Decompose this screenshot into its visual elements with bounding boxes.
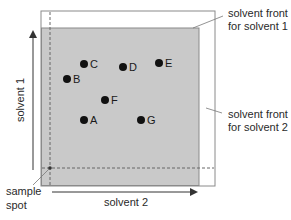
- tlc-diagram: solvent 1 solvent 2 solvent front for so…: [0, 0, 291, 220]
- svg-text:D: D: [129, 61, 137, 73]
- svg-text:F: F: [111, 94, 118, 106]
- svg-text:E: E: [165, 57, 172, 69]
- solvent-front-1-text-1: solvent front: [228, 7, 288, 19]
- solvent-front-1-text-2: for solvent 1: [228, 20, 288, 32]
- svg-text:C: C: [90, 58, 98, 70]
- sample-spot-text-1: sample: [6, 185, 41, 197]
- solvent-front-2-text-1: solvent front: [228, 108, 288, 120]
- svg-text:A: A: [90, 114, 98, 126]
- solvent-front-2-text-2: for solvent 2: [228, 121, 288, 133]
- sample-spot-text-2: spot: [6, 199, 27, 211]
- solvent-2-label: solvent 2: [104, 196, 148, 208]
- developed-region: [42, 28, 200, 186]
- solvent-1-label: solvent 1: [14, 78, 26, 122]
- svg-text:B: B: [73, 73, 80, 85]
- svg-text:G: G: [147, 114, 156, 126]
